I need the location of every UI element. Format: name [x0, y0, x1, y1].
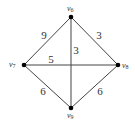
vertex-v8 [116, 63, 121, 68]
label-v9: v9 [67, 111, 74, 120]
label-v6: v6 [67, 4, 74, 13]
edge-v6-v8 [71, 17, 118, 65]
weight-v6-v7: 9 [41, 29, 47, 41]
label-v7: v7 [9, 60, 16, 69]
weight-v7-v9: 6 [40, 85, 46, 97]
vertex-v6 [69, 15, 74, 20]
weight-v8-v9: 6 [97, 85, 103, 97]
weight-v7-v8: 5 [48, 53, 54, 65]
vertex-v7 [22, 63, 27, 68]
weight-v6-v9: 3 [73, 44, 79, 56]
edge-v8-v9 [71, 65, 118, 108]
label-v8: v8 [122, 61, 129, 70]
weight-v6-v8: 3 [96, 29, 102, 41]
vertex-v9 [69, 106, 74, 111]
weighted-graph-diagram: 9 3 3 5 6 6 v6 v7 v8 v9 [0, 0, 135, 124]
edge-v7-v9 [24, 65, 71, 108]
